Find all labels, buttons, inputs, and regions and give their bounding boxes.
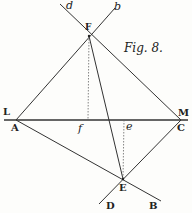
label-E: E: [119, 183, 127, 193]
label-e: e: [126, 121, 133, 132]
line-bA: [16, 8, 115, 120]
dotted-eE: [123, 120, 124, 179]
label-f: f: [78, 123, 82, 134]
figure-lines: [0, 0, 192, 213]
dotted-Ff: [88, 36, 89, 120]
label-L: L: [3, 107, 10, 117]
label-M: M: [178, 108, 189, 118]
line-dC: [60, 4, 181, 120]
line-CD: [99, 120, 181, 204]
label-b: b: [114, 1, 121, 12]
label-D: D: [106, 201, 115, 211]
label-C: C: [177, 123, 185, 133]
label-A: A: [11, 123, 19, 133]
label-d: d: [66, 0, 73, 11]
label-B: B: [149, 201, 157, 211]
label-F: F: [85, 23, 91, 32]
line-AB: [16, 120, 161, 201]
figure-title: Fig. 8.: [124, 42, 163, 54]
geometry-figure: d b F Fig. 8. L A f e M C E D B: [0, 0, 192, 213]
line-FE: [89, 36, 123, 179]
